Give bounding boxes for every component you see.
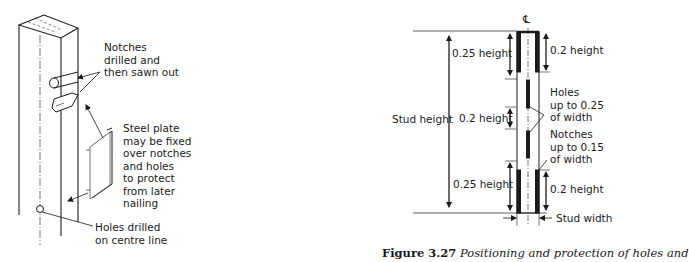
- notches-label-line: drilled and: [104, 54, 179, 67]
- steel-plate-label-line: and holes: [123, 160, 191, 173]
- figure-caption: Figure 3.27 Positioning and protection o…: [382, 246, 689, 260]
- steel-plate-label-line: over notches: [123, 147, 191, 160]
- stud-width-label: Stud width: [556, 212, 612, 225]
- top-right-dimension: 0.2 height: [550, 44, 604, 57]
- steel-plate-label-line: Steel plate: [123, 122, 191, 135]
- steel-plate-label-line: to protect: [123, 172, 191, 185]
- bottom-right-dimension: 0.2 height: [550, 183, 604, 196]
- stud-height-label: Stud height: [392, 113, 453, 126]
- holes-label-line: up to 0.25: [550, 99, 604, 112]
- steel-plate-label-line: from later: [123, 185, 191, 198]
- notches-label-line: Notches: [104, 41, 179, 54]
- holes-label-line: of width: [550, 111, 604, 124]
- drilled-hole-lower: [37, 206, 44, 213]
- notches-label-line: then sawn out: [104, 66, 179, 79]
- holes-drilled-label-line: on centre line: [95, 234, 167, 247]
- centre-line-symbol: ℄: [523, 14, 530, 27]
- notches-width-label: Notches up to 0.15 of width: [550, 128, 604, 166]
- isometric-stud: [19, 15, 78, 245]
- steel-plate: [86, 128, 112, 199]
- bottom-left-dimension: 0.25 height: [453, 178, 513, 191]
- holes-label-line: Holes: [550, 86, 604, 99]
- notches-label: Notches drilled and then sawn out: [104, 41, 179, 79]
- holes-drilled-label: Holes drilled on centre line: [95, 221, 167, 246]
- steel-plate-label-line: nailing: [123, 197, 191, 210]
- notches-width-label-line: up to 0.15: [550, 141, 604, 154]
- notch: [52, 93, 78, 112]
- steel-plate-label-line: may be fixed: [123, 135, 191, 148]
- drilled-hole-upper: [50, 72, 79, 88]
- figure-caption-text: Positioning and protection of holes and: [460, 246, 689, 260]
- holes-drilled-label-line: Holes drilled: [95, 221, 167, 234]
- notches-width-label-line: Notches: [550, 128, 604, 141]
- holes-label: Holes up to 0.25 of width: [550, 86, 604, 124]
- middle-left-dimension: 0.2 height: [459, 112, 513, 125]
- notches-width-label-line: of width: [550, 153, 604, 166]
- top-left-dimension: 0.25 height: [452, 47, 512, 60]
- steel-plate-label: Steel plate may be fixed over notches an…: [123, 122, 191, 210]
- figure-number: Figure 3.27: [382, 246, 456, 260]
